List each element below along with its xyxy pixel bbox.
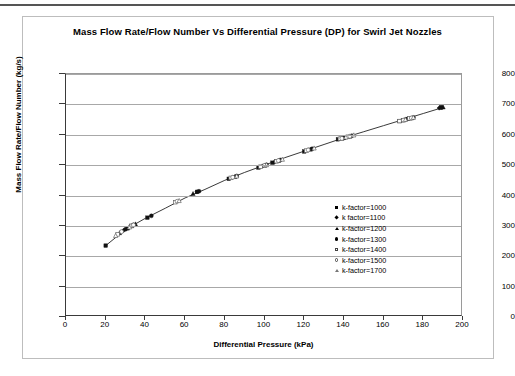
- legend-label: k-factor=1700: [341, 266, 386, 275]
- page-title: Mass Flow Rate/Flow Number Vs Differenti…: [0, 26, 515, 37]
- legend-item[interactable]: k-factor=1200: [332, 223, 418, 234]
- x-tick-label: 180: [402, 320, 442, 329]
- x-tick-label: 40: [124, 320, 164, 329]
- x-tick-label: 0: [45, 320, 85, 329]
- legend-marker-icon: [332, 216, 341, 219]
- y-tick-label: 500: [481, 160, 515, 169]
- x-tick-label: 160: [363, 320, 403, 329]
- legend-item[interactable]: k-factor=1000: [332, 202, 418, 213]
- x-tick-label: 120: [283, 320, 323, 329]
- x-tick-label: 200: [442, 320, 482, 329]
- legend-label: k-factor=1200: [341, 224, 386, 233]
- y-tick-label: 0: [481, 312, 515, 321]
- legend-label: k-factor=1000: [341, 203, 386, 212]
- x-tick-label: 20: [85, 320, 125, 329]
- top-divider: [0, 4, 515, 6]
- y-tick-label: 400: [481, 190, 515, 199]
- x-axis-title: Differential Pressure (kPa): [65, 340, 462, 349]
- legend-label: k-factor=1300: [341, 235, 386, 244]
- x-tick-label: 60: [164, 320, 204, 329]
- gridline: [66, 74, 461, 75]
- legend-item[interactable]: k-factor=1700: [332, 266, 418, 277]
- y-tick-label: 600: [481, 129, 515, 138]
- legend-item[interactable]: k factor=1100: [332, 213, 418, 224]
- gridline: [66, 196, 461, 197]
- legend-item[interactable]: k-factor=1500: [332, 255, 418, 266]
- legend-label: k-factor=1400: [341, 245, 386, 254]
- plot-area: [65, 73, 462, 316]
- legend-marker-icon: [332, 227, 341, 230]
- legend-marker-icon: [332, 269, 341, 272]
- legend: k-factor=1000k factor=1100k-factor=1200k…: [332, 202, 418, 276]
- legend-item[interactable]: k-factor=1300: [332, 234, 418, 245]
- legend-marker-icon: [332, 206, 341, 209]
- x-tick-label: 140: [323, 320, 363, 329]
- y-tick-label: 300: [481, 220, 515, 229]
- gridline: [66, 287, 461, 288]
- x-tick-label: 80: [204, 320, 244, 329]
- gridline: [66, 135, 461, 136]
- x-tick-label: 100: [244, 320, 284, 329]
- y-tick-label: 700: [481, 99, 515, 108]
- legend-label: k-factor=1500: [341, 256, 386, 265]
- legend-marker-icon: [332, 248, 341, 251]
- gridline: [66, 104, 461, 105]
- y-axis-title: Mass Flow Rate/Flow Number (kg/s): [14, 45, 23, 205]
- y-tick-label: 200: [481, 251, 515, 260]
- legend-label: k factor=1100: [341, 213, 385, 222]
- legend-marker-icon: [332, 258, 341, 262]
- y-tick-label: 100: [481, 281, 515, 290]
- legend-item[interactable]: k-factor=1400: [332, 244, 418, 255]
- y-tick-label: 800: [481, 69, 515, 78]
- gridline: [66, 165, 461, 166]
- legend-marker-icon: [332, 237, 341, 241]
